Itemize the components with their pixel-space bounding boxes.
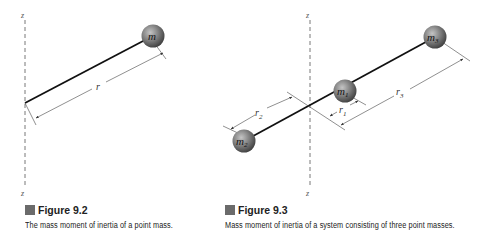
distance-label-r3: r3 xyxy=(396,86,404,100)
dimension-line-r3 xyxy=(410,59,463,89)
dimension-line-r1 xyxy=(350,101,358,105)
distance-label-r: r xyxy=(96,81,100,92)
z-axis-label-bottom: z xyxy=(20,189,25,198)
figure-9-2-diagram: z z r m xyxy=(20,11,166,198)
figure-9-2-title-text: Figure 9.2 xyxy=(38,204,88,216)
figure-9-3-diagram: z z r2 r1 r3 m2 m1 m3 xyxy=(223,11,470,198)
extension-line xyxy=(25,103,36,125)
extension-line xyxy=(442,42,470,61)
caption-marker-box xyxy=(25,205,35,215)
dimension-line-r2 xyxy=(267,97,292,108)
figure-9-3-title: Figure 9.3 xyxy=(225,204,288,216)
figure-9-2-title: Figure 9.2 xyxy=(25,204,88,216)
z-axis-label-top: z xyxy=(305,11,310,20)
z-axis-label-bottom: z xyxy=(305,189,310,198)
dimension-line-r2 xyxy=(231,115,255,129)
diagram-canvas: z z r m z z r2 r1 r3 xyxy=(0,0,497,237)
dimension-line-r xyxy=(106,53,163,82)
figure-9-3-title-text: Figure 9.3 xyxy=(238,204,288,216)
distance-label-r1: r1 xyxy=(339,104,346,118)
distance-label-r2: r2 xyxy=(255,107,263,121)
mass-label-m: m xyxy=(148,30,156,42)
figure-9-3-caption: Mass moment of inertia of a system consi… xyxy=(225,220,455,230)
z-axis-label-top: z xyxy=(20,11,25,20)
dimension-line-r1 xyxy=(330,112,337,116)
figure-9-2-caption: The mass moment of inertia of a point ma… xyxy=(25,220,173,230)
caption-marker-box xyxy=(225,205,235,215)
